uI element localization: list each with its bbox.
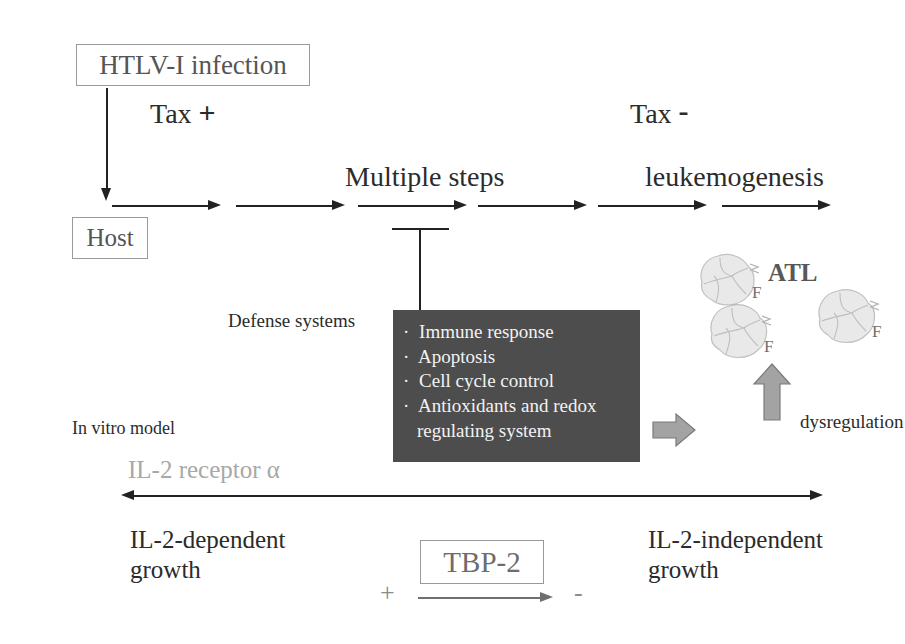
- list-item: · Cell cycle control: [403, 369, 640, 394]
- label-defense-systems: Defense systems: [228, 310, 355, 332]
- node-htlv-infection: HTLV-I infection: [76, 44, 310, 86]
- atl-flower-cell-icon-2: F: [700, 298, 792, 370]
- label-il2-dependent-growth: IL-2-dependent growth: [130, 525, 285, 584]
- label-atl: ATL: [768, 258, 818, 288]
- block-arrow-right-icon: [652, 412, 696, 448]
- list-item: · Apoptosis: [403, 345, 640, 370]
- label-multiple-steps: Multiple steps: [345, 160, 504, 193]
- list-item-label-continued: regulating system: [403, 419, 640, 444]
- label-tbp2-minus: -: [574, 578, 583, 609]
- label-tax-negative-text: Tax: [630, 98, 672, 129]
- atl-flower-cell-icon-1: F: [690, 248, 780, 318]
- label-in-vitro-model: In vitro model: [72, 418, 175, 439]
- label-il2-dependent-growth-line2: growth: [130, 555, 285, 585]
- plus-symbol-tax: +: [199, 96, 216, 129]
- list-item-label: Apoptosis: [418, 346, 495, 367]
- label-tax-positive: Tax +: [150, 95, 216, 130]
- label-tax-negative: Tax -: [630, 95, 689, 130]
- label-il2-dependent-growth-line1: IL-2-dependent: [130, 525, 285, 555]
- list-item: · Antioxidants and redox regulating syst…: [403, 394, 640, 443]
- inhibition-stem: [419, 228, 421, 310]
- label-tax-positive-text: Tax: [150, 98, 192, 129]
- node-host: Host: [72, 217, 148, 259]
- cell-mark-label: F: [872, 322, 881, 341]
- bullet-icon: ·: [403, 346, 409, 367]
- label-il2-independent-growth-line2: growth: [648, 555, 823, 585]
- node-tbp2: TBP-2: [420, 540, 544, 584]
- label-dysregulation: dysregulation: [800, 411, 903, 433]
- bullet-icon: ·: [403, 395, 409, 416]
- label-il2-receptor-alpha: IL-2 receptor α: [128, 455, 280, 485]
- list-item-label: Antioxidants and redox: [418, 395, 596, 416]
- defense-systems-list: · Immune response · Apoptosis · Cell cyc…: [403, 320, 640, 443]
- node-tbp2-label: TBP-2: [443, 546, 520, 579]
- block-arrow-up-icon: [752, 362, 792, 422]
- bullet-icon: ·: [403, 321, 409, 342]
- cell-mark-label: F: [764, 337, 773, 356]
- connector-htlv-to-host-arrowhead: [101, 188, 111, 201]
- list-item-label: Immune response: [419, 321, 554, 342]
- minus-symbol-tax: -: [679, 94, 689, 127]
- node-host-label: Host: [86, 224, 133, 252]
- label-leukemogenesis: leukemogenesis: [645, 160, 824, 193]
- defense-systems-box: · Immune response · Apoptosis · Cell cyc…: [393, 310, 640, 462]
- label-il2-independent-growth-line1: IL-2-independent: [648, 525, 823, 555]
- list-item: · Immune response: [403, 320, 640, 345]
- cell-mark-label: F: [752, 283, 761, 302]
- label-tbp2-plus: +: [380, 578, 395, 609]
- list-item-label: Cell cycle control: [419, 370, 554, 391]
- node-htlv-infection-label: HTLV-I infection: [99, 50, 287, 81]
- connector-htlv-to-host-line: [106, 88, 108, 190]
- atl-flower-cell-icon-3: F: [808, 283, 898, 355]
- bullet-icon: ·: [403, 370, 409, 391]
- label-il2-independent-growth: IL-2-independent growth: [648, 525, 823, 584]
- diagram-canvas: HTLV-I infection Tax + Tax - Host: [0, 0, 905, 644]
